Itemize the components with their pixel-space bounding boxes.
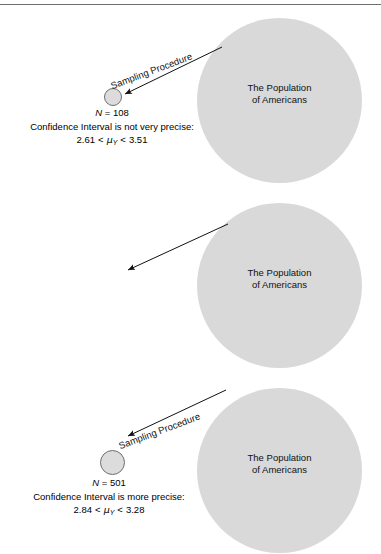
ci-lower: 2.61 bbox=[77, 134, 96, 145]
ci-operator-right: < bbox=[120, 134, 126, 145]
sample-size-line: N = 108 bbox=[2, 106, 222, 120]
panel-caption: N = 108 Confidence Interval is not very … bbox=[2, 106, 222, 150]
panel-n1890: The Population of Americans Sampling Pro… bbox=[0, 370, 381, 554]
sampling-arrow bbox=[0, 185, 381, 370]
ci-operator-left: < bbox=[98, 134, 104, 145]
panel-n501: The Population of Americans Sampling Pro… bbox=[0, 185, 381, 370]
n-value: = 108 bbox=[102, 107, 129, 118]
precision-description: Confidence Interval is not very precise: bbox=[2, 120, 222, 134]
sampling-arrow bbox=[0, 0, 381, 185]
figure-container: The Population of Americans Sampling Pro… bbox=[0, 0, 381, 554]
mu-subscript: Y bbox=[113, 139, 118, 146]
sampling-arrow bbox=[0, 370, 381, 554]
ci-upper: 3.51 bbox=[129, 134, 148, 145]
confidence-interval: 2.61<μY<3.51 bbox=[2, 133, 222, 150]
panel-n108: The Population of Americans Sampling Pro… bbox=[0, 0, 381, 185]
